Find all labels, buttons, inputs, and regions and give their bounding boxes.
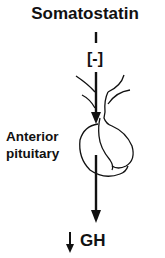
stalk-branches-icon — [76, 75, 130, 108]
pituitary-diagram — [0, 0, 165, 258]
down-arrow-icon — [91, 155, 101, 223]
down-arrow-icon — [91, 72, 101, 124]
decrease-arrow-icon — [66, 232, 74, 253]
pituitary-outline-icon — [80, 92, 133, 176]
